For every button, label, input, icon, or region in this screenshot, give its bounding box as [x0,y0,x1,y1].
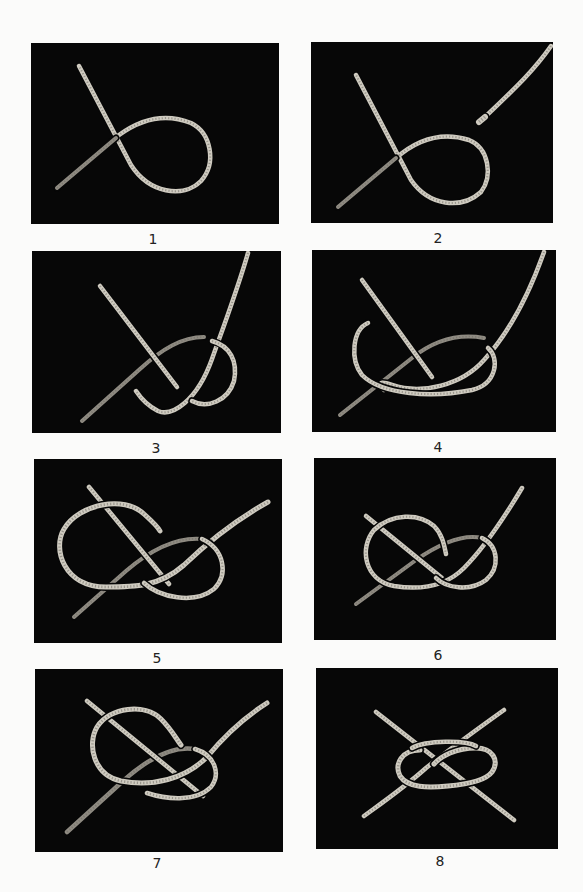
step-number-label: 6 [418,647,458,663]
step-number-label: 7 [137,855,177,871]
step-number-label: 4 [418,439,458,455]
rope-illustration [32,251,281,433]
rope-strand [362,280,432,377]
step-number-label: 1 [133,231,173,247]
knot-step-panel-3 [32,251,281,433]
knot-step-panel-2 [311,42,553,223]
rope-illustration [31,43,279,224]
step-number-label: 5 [137,650,177,666]
step-number-label: 3 [136,440,176,456]
knot-step-panel-5 [34,459,282,643]
knot-step-panel-6 [314,458,556,640]
step-number-label: 2 [418,230,458,246]
rope-illustration [34,459,282,643]
rope-illustration [312,250,556,432]
knot-step-panel-4 [312,250,556,432]
knot-step-panel-7 [35,669,283,852]
knot-step-panel-8 [316,668,558,849]
rope-illustration [35,669,283,852]
knot-step-panel-1 [31,43,279,224]
rope-illustration [311,42,553,223]
rope-illustration [314,458,556,640]
rope-strand [380,252,544,390]
step-number-label: 8 [420,853,460,869]
rope-illustration [316,668,558,849]
